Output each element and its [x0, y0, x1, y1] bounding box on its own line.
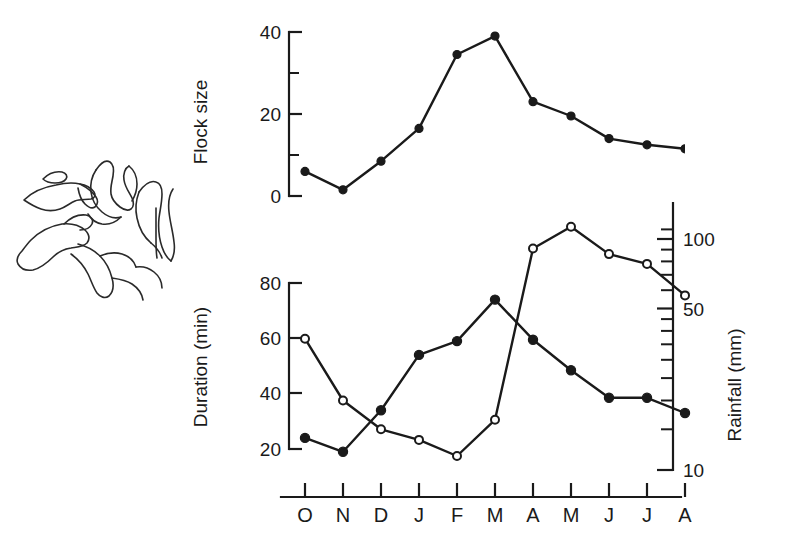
- flock-size-data-point: [491, 32, 499, 40]
- x-axis-label-5: M: [487, 504, 504, 525]
- flock-size-data-point: [415, 124, 423, 132]
- x-axis-ticks: [305, 483, 685, 497]
- flock-size-series-line: [305, 36, 685, 190]
- flock-size-y-tick-labels: 0 20 40: [260, 22, 281, 207]
- duration-data-point: [414, 350, 423, 359]
- flock-size-chart: Flock size 0 20 40: [185, 8, 685, 223]
- rainfall-ytick-10: 10: [683, 460, 704, 481]
- figure-root: Flock size 0 20 40 Duration (min) Rainfa…: [0, 0, 799, 560]
- flock-size-data-point: [529, 98, 537, 106]
- x-axis-label-9: J: [642, 504, 652, 525]
- bird-flock-artwork: [17, 161, 174, 300]
- flock-size-data-point: [681, 145, 685, 153]
- rainfall-data-point: [453, 452, 461, 460]
- rainfall-data-point: [339, 397, 347, 405]
- rainfall-data-point: [377, 425, 385, 433]
- duration-ytick-60: 60: [260, 328, 281, 349]
- x-axis-label-0: O: [297, 504, 313, 525]
- flock-size-data-point: [605, 135, 613, 143]
- flock-size-data-point: [643, 141, 651, 149]
- duration-data-point: [452, 337, 461, 346]
- flock-size-data-point: [567, 112, 575, 120]
- flock-size-data-point: [453, 51, 461, 59]
- rainfall-y-ticks: [657, 229, 673, 470]
- x-axis-label-1: N: [336, 504, 350, 525]
- duration-rainfall-chart: Duration (min) Rainfall (mm) 20 40 60 80…: [185, 195, 799, 525]
- duration-ytick-20: 20: [260, 439, 281, 460]
- rainfall-data-point: [301, 335, 309, 343]
- rainfall-data-point: [567, 223, 575, 231]
- duration-data-point: [528, 335, 537, 344]
- flock-of-birds-illustration: [8, 152, 193, 302]
- flock-size-y-axis-title: Flock size: [190, 80, 211, 164]
- flock-size-data-point: [301, 167, 309, 175]
- x-axis-label-2: D: [374, 504, 388, 525]
- rainfall-data-point: [681, 291, 689, 299]
- duration-markers: [300, 295, 689, 456]
- flock-size-markers: [301, 32, 685, 194]
- rainfall-y-tick-labels: 1050100: [683, 229, 715, 481]
- duration-data-point: [642, 393, 651, 402]
- flock-size-ytick-40: 40: [260, 22, 281, 43]
- duration-data-point: [338, 447, 347, 456]
- x-axis-label-7: M: [563, 504, 580, 525]
- rainfall-y-axis-title: Rainfall (mm): [724, 329, 745, 442]
- duration-series-line: [305, 300, 685, 452]
- x-axis-tick-labels: ONDJFMAMJJA: [297, 504, 692, 525]
- flock-size-data-point: [377, 157, 385, 165]
- rainfall-data-point: [605, 250, 613, 258]
- rainfall-ytick-50: 50: [683, 299, 704, 320]
- duration-data-point: [604, 393, 613, 402]
- duration-y-tick-labels: 20 40 60 80: [260, 273, 281, 460]
- duration-data-point: [300, 433, 309, 442]
- duration-data-point: [490, 295, 499, 304]
- duration-ytick-40: 40: [260, 383, 281, 404]
- x-axis-label-10: A: [678, 504, 692, 525]
- rainfall-markers: [301, 223, 689, 460]
- x-axis-label-6: A: [526, 504, 540, 525]
- duration-y-ticks: [289, 283, 302, 449]
- duration-ytick-80: 80: [260, 273, 281, 294]
- rainfall-data-point: [415, 436, 423, 444]
- rainfall-data-point: [643, 260, 651, 268]
- duration-data-point: [680, 408, 689, 417]
- flock-size-ytick-20: 20: [260, 104, 281, 125]
- duration-data-point: [376, 406, 385, 415]
- rainfall-data-point: [491, 416, 499, 424]
- rainfall-data-point: [529, 245, 537, 253]
- rainfall-ytick-100: 100: [683, 229, 715, 250]
- x-axis-label-8: J: [604, 504, 614, 525]
- x-axis-label-3: J: [414, 504, 424, 525]
- duration-data-point: [566, 366, 575, 375]
- duration-y-axis-title: Duration (min): [190, 307, 211, 427]
- flock-size-data-point: [339, 186, 347, 194]
- x-axis-label-4: F: [451, 504, 463, 525]
- flock-size-y-ticks: [289, 32, 302, 196]
